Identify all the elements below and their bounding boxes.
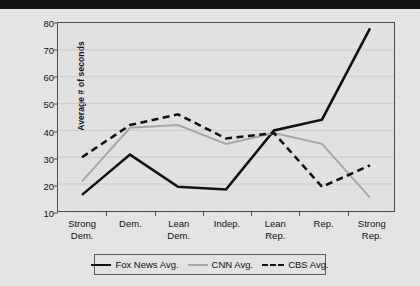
chart-legend: Fox News Avg.CNN Avg.CBS Avg. (94, 254, 326, 275)
y-tick-label: 80 (43, 18, 54, 29)
x-tick-mark (251, 211, 252, 216)
figure-container: Average # of seconds 1020304050607080 St… (0, 9, 420, 286)
x-category-label-line: Indep. (214, 218, 240, 230)
legend-label: CNN Avg. (212, 259, 254, 270)
series-line (82, 28, 370, 195)
x-category-label: Indep. (214, 218, 240, 230)
y-tick-label: 70 (43, 45, 54, 56)
legend-label: Fox News Avg. (115, 259, 178, 270)
series-line (82, 125, 370, 198)
y-tick-label: 10 (43, 208, 54, 219)
series-lines (58, 23, 394, 211)
plot-area: Average # of seconds 1020304050607080 St… (57, 22, 395, 212)
legend-entry: Fox News Avg. (91, 259, 178, 270)
x-category-label-line: Rep. (314, 218, 334, 230)
x-category-label-line: Dem. (167, 230, 190, 242)
y-tick-label: 30 (43, 153, 54, 164)
x-tick-mark (155, 211, 156, 216)
y-tick-label: 20 (43, 180, 54, 191)
x-category-label-line: Strong (358, 218, 386, 230)
x-category-label-line: Dem. (119, 218, 142, 230)
legend-entry: CBS Avg. (262, 259, 329, 270)
top-black-rule (0, 0, 420, 9)
y-tick-label: 50 (43, 99, 54, 110)
x-category-label: Rep. (314, 218, 334, 230)
x-tick-mark (106, 211, 107, 216)
x-category-label: LeanRep. (265, 218, 286, 241)
legend-swatch-icon (91, 264, 111, 266)
x-category-label: LeanDem. (167, 218, 190, 241)
x-category-label-line: Lean (265, 218, 286, 230)
x-category-label: StrongRep. (358, 218, 386, 241)
legend-label: CBS Avg. (288, 259, 329, 270)
x-category-label: Dem. (119, 218, 142, 230)
x-tick-mark (203, 211, 204, 216)
legend-swatch-icon (188, 264, 208, 266)
x-category-label: StrongDem. (68, 218, 96, 241)
x-tick-mark (348, 211, 349, 216)
y-tick-label: 40 (43, 126, 54, 137)
x-category-label-line: Rep. (265, 230, 286, 242)
x-category-label-line: Lean (167, 218, 190, 230)
legend-swatch-icon (262, 264, 284, 266)
x-category-label-line: Strong (68, 218, 96, 230)
y-tick-label: 60 (43, 72, 54, 83)
x-category-label-line: Dem. (68, 230, 96, 242)
x-tick-mark (299, 211, 300, 216)
legend-entry: CNN Avg. (188, 259, 254, 270)
x-category-label-line: Rep. (358, 230, 386, 242)
y-tick-mark (54, 213, 58, 214)
